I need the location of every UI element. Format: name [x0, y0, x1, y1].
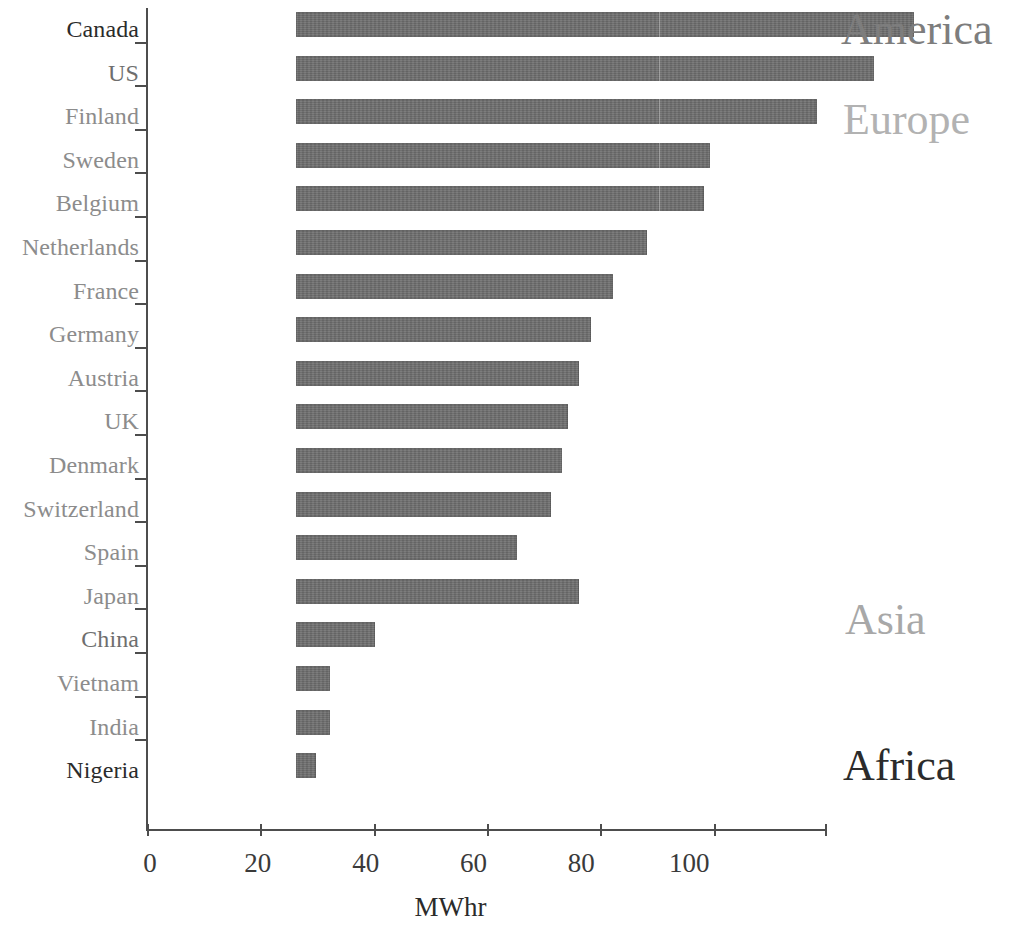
bar-india: [296, 710, 330, 735]
x-tick: [260, 824, 262, 836]
category-label-switzerland: Switzerland: [0, 497, 139, 521]
x-tick: [487, 824, 489, 836]
bar-finland: [296, 99, 817, 124]
x-tick-label-0: 0: [143, 848, 157, 878]
category-label-germany: Germany: [0, 322, 139, 346]
x-tick-label-100: 100: [669, 848, 710, 878]
category-label-us: US: [0, 61, 139, 85]
category-label-france: France: [0, 279, 139, 303]
category-label-india: India: [0, 715, 139, 739]
category-label-netherlands: Netherlands: [0, 235, 139, 259]
bar-japan: [296, 579, 579, 604]
bar-chart: CanadaUSFinlandSwedenBelgiumNetherlandsF…: [0, 0, 1035, 931]
x-tick: [714, 824, 716, 836]
x-tick-label-20: 20: [244, 848, 271, 878]
x-tick-label-40: 40: [352, 848, 379, 878]
x-axis-end-tick: [825, 824, 827, 836]
bar-france: [296, 274, 613, 299]
category-label-canada: Canada: [0, 17, 139, 41]
category-label-finland: Finland: [0, 104, 139, 128]
bar-spain: [296, 535, 517, 560]
bar-belgium: [296, 186, 704, 211]
bar-denmark: [296, 448, 562, 473]
category-label-china: China: [0, 627, 139, 651]
bar-vietnam: [296, 666, 330, 691]
region-label-asia: Asia: [845, 598, 926, 642]
x-tick: [147, 824, 149, 836]
bar-sweden: [296, 143, 710, 168]
bar-germany: [296, 317, 591, 342]
region-label-africa: Africa: [843, 744, 955, 788]
region-label-europe: Europe: [843, 98, 970, 142]
bar-netherlands: [296, 230, 647, 255]
category-label-japan: Japan: [0, 584, 139, 608]
bar-china: [296, 622, 375, 647]
x-tick-label-80: 80: [568, 848, 595, 878]
y-axis-line: [146, 8, 148, 830]
bar-switzerland: [296, 492, 551, 517]
region-label-america: America: [841, 8, 992, 52]
category-label-nigeria: Nigeria: [0, 758, 139, 782]
category-label-austria: Austria: [0, 366, 139, 390]
x-tick: [374, 824, 376, 836]
category-label-denmark: Denmark: [0, 453, 139, 477]
bar-canada: [296, 12, 914, 37]
category-label-belgium: Belgium: [0, 191, 139, 215]
x-tick: [600, 824, 602, 836]
x-axis-title-text: MWhr: [415, 892, 487, 922]
category-label-spain: Spain: [0, 540, 139, 564]
x-axis-title: MWhr: [0, 892, 1035, 923]
bar-austria: [296, 361, 579, 386]
bar-us: [296, 56, 874, 81]
plot-area: [147, 8, 827, 830]
bar-nigeria: [296, 753, 316, 778]
category-label-uk: UK: [0, 409, 139, 433]
x-tick-label-60: 60: [460, 848, 487, 878]
bar-uk: [296, 404, 568, 429]
category-label-sweden: Sweden: [0, 148, 139, 172]
category-label-vietnam: Vietnam: [0, 671, 139, 695]
